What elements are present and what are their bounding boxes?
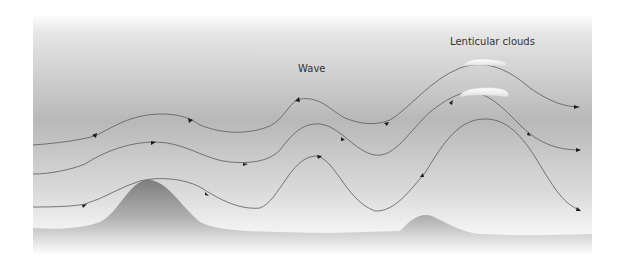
wave-label: Wave: [298, 63, 325, 74]
lenticular-clouds-label: Lenticular clouds: [450, 36, 535, 47]
mountain-wave-diagram: Wave Lenticular clouds: [0, 0, 622, 263]
